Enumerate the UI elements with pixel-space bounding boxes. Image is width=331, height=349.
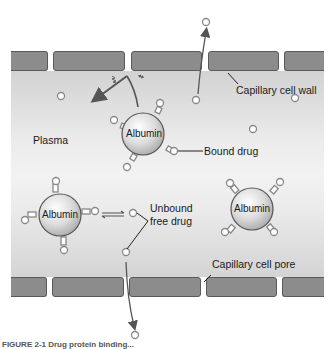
bound-drug-label: Bound drug	[204, 145, 258, 157]
unbound-free-drug-label-line2: free drug	[150, 215, 192, 227]
albumin-label: Albumin	[126, 128, 162, 139]
impact-zigzag	[112, 76, 116, 83]
unbound-free-drug-label-line1: Unbound	[150, 202, 193, 214]
free-drug-molecules	[58, 19, 299, 339]
capillary-cell-pore-label: Capillary cell pore	[212, 258, 295, 270]
figure-caption: FIGURE 2-1 Drug protein binding...	[2, 340, 134, 349]
albumin-label: Albumin	[234, 203, 270, 214]
impact-zigzag	[138, 75, 144, 78]
albumin-label: Albumin	[42, 209, 78, 220]
capillary-cell-wall-label: Capillary cell wall	[236, 84, 317, 96]
bounce-arc	[127, 76, 138, 107]
plasma-label: Plasma	[33, 134, 68, 146]
exit-arrow-up	[198, 32, 206, 94]
equilibrium-arrow	[102, 211, 124, 213]
exit-arrow-down	[126, 262, 134, 326]
